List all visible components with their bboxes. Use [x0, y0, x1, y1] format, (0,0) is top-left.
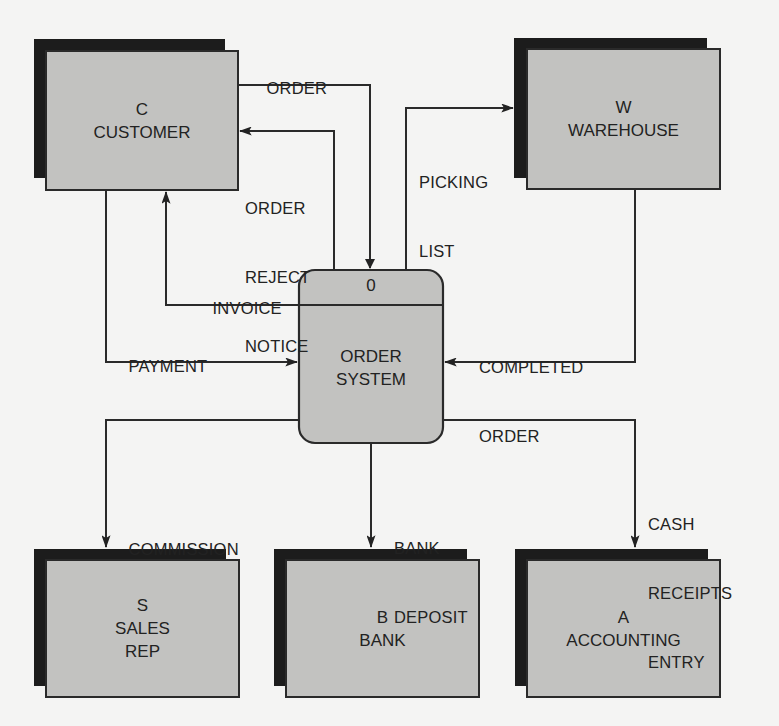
entity-accounting-code: A: [618, 606, 629, 629]
entity-customer-name: CUSTOMER: [94, 121, 191, 144]
entity-warehouse-name: WAREHOUSE: [568, 119, 679, 142]
flow-order-reject-label: ORDER REJECT NOTICE: [245, 151, 310, 381]
flow-payment-label: PAYMENT: [119, 332, 207, 378]
flow-bank-deposit-label: BANK DEPOSIT: [394, 491, 468, 652]
flow-picking-list-label: PICKING LIST: [419, 125, 488, 286]
entity-customer: C CUSTOMER: [46, 51, 238, 190]
process-name-line-2: SYSTEM: [336, 368, 406, 391]
entity-sales-rep: S SALES REP: [46, 560, 239, 697]
entity-customer-code: C: [136, 98, 148, 121]
entity-bank-code: B: [377, 606, 388, 629]
flow-invoice-label: INVOICE: [203, 274, 282, 320]
flow-completed-order-label: COMPLETED ORDER: [479, 310, 583, 471]
entity-sales-rep-name-1: SALES: [115, 617, 170, 640]
entity-warehouse-code: W: [615, 96, 631, 119]
entity-warehouse: W WAREHOUSE: [527, 49, 720, 189]
flow-commission-label: COMMISSION: [119, 515, 239, 561]
flow-cash-receipts-label: CASH RECEIPTS ENTRY: [648, 467, 732, 697]
flow-order-label: ORDER: [257, 54, 327, 100]
entity-sales-rep-name-2: REP: [125, 640, 160, 663]
process-name-line-1: ORDER: [340, 345, 401, 368]
process-name: ORDER SYSTEM: [299, 340, 443, 396]
entity-sales-rep-code: S: [137, 594, 148, 617]
